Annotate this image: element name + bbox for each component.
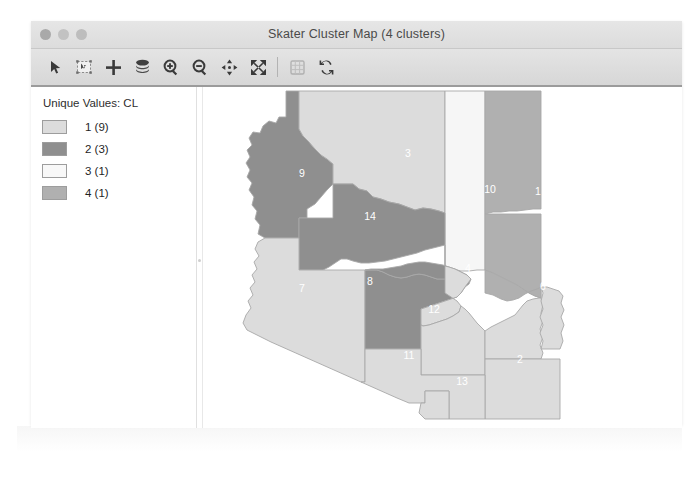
refresh-tool[interactable]	[312, 53, 340, 81]
region-6-label: 6	[540, 280, 546, 292]
region-10-label: 10	[484, 183, 496, 195]
window-title: Skater Cluster Map (4 clusters)	[31, 27, 682, 41]
region-3-label: 3	[405, 147, 411, 159]
map-toolbar	[31, 49, 682, 87]
legend-title: Unique Values: CL	[43, 97, 196, 109]
zoom-in-icon	[162, 58, 181, 77]
panel-splitter[interactable]	[196, 87, 203, 428]
crosshair-tool[interactable]	[99, 53, 127, 81]
legend-panel: Unique Values: CL 1 (9) 2 (3) 3 (1) 4 (1…	[31, 87, 196, 428]
region-13-label: 13	[456, 375, 468, 387]
legend-item-label: 2 (3)	[85, 143, 109, 155]
splitter-grip	[198, 259, 201, 262]
selection-rect-icon	[75, 58, 93, 76]
legend-swatch	[42, 142, 67, 156]
layers-stack-icon	[133, 58, 152, 76]
zoom-out-tool[interactable]	[186, 53, 214, 81]
pan-tool[interactable]	[215, 53, 243, 81]
region-7-label: 7	[299, 282, 305, 294]
crosshair-plus-icon	[104, 58, 123, 77]
toolbar-separator	[277, 57, 278, 77]
legend-item-1[interactable]: 1 (9)	[42, 116, 196, 138]
region-4-label: 4	[465, 262, 471, 274]
legend-item-3[interactable]: 3 (1)	[42, 160, 196, 182]
region-9-label: 9	[299, 167, 305, 179]
region-10[interactable]	[445, 91, 485, 271]
window-titlebar[interactable]: Skater Cluster Map (4 clusters)	[31, 21, 682, 49]
select-pointer-tool[interactable]	[41, 53, 69, 81]
legend-item-label: 1 (9)	[85, 121, 109, 133]
pan-four-arrows-icon	[220, 58, 239, 77]
map-window: Skater Cluster Map (4 clusters)	[31, 21, 682, 425]
region-11-label: 11	[404, 349, 415, 361]
region-5[interactable]	[485, 298, 543, 359]
legend-item-label: 3 (1)	[85, 165, 109, 177]
legend-item-label: 4 (1)	[85, 187, 109, 199]
region-1-label: 1	[535, 185, 541, 197]
screenshot-root: Skater Cluster Map (4 clusters)	[0, 0, 699, 477]
region-5-label: 5	[506, 301, 512, 313]
legend-swatch	[42, 186, 67, 200]
expand-arrows-icon	[249, 58, 268, 77]
legend-item-4[interactable]: 4 (1)	[42, 182, 196, 204]
legend-item-2[interactable]: 2 (3)	[42, 138, 196, 160]
table-tool[interactable]	[283, 53, 311, 81]
region-8-label: 8	[367, 275, 373, 287]
region-2[interactable]	[485, 359, 560, 419]
window-body: Unique Values: CL 1 (9) 2 (3) 3 (1) 4 (1…	[31, 87, 682, 428]
region-6[interactable]	[540, 287, 564, 349]
legend-swatch	[42, 164, 67, 178]
arrow-pointer-icon	[47, 59, 64, 76]
map-canvas[interactable]: 9 3 10 1 14 4 7 8 12 6 5 11 2 13	[203, 87, 682, 428]
refresh-arrows-icon	[317, 58, 336, 77]
legend-swatch	[42, 120, 67, 134]
choropleth-map: 9 3 10 1 14 4 7 8 12 6 5 11 2 13	[203, 87, 682, 428]
region-12-label: 12	[428, 303, 440, 315]
zoom-out-icon	[191, 58, 210, 77]
select-rectangle-tool[interactable]	[70, 53, 98, 81]
region-2-label: 2	[517, 353, 523, 365]
desktop-shadow-lower	[17, 426, 682, 452]
full-extent-tool[interactable]	[244, 53, 272, 81]
table-grid-icon	[288, 58, 307, 77]
zoom-in-tool[interactable]	[157, 53, 185, 81]
region-14-label: 14	[364, 210, 376, 222]
layers-tool[interactable]	[128, 53, 156, 81]
